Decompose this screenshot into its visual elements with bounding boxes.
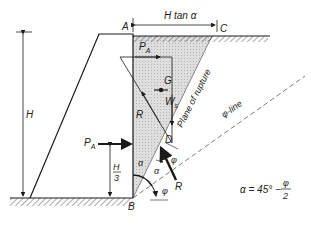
phi-arc-b (152, 186, 156, 196)
label-phi-line: φ-line (219, 98, 243, 119)
label-g: G (164, 75, 172, 86)
label-phi-b: φ (162, 186, 168, 196)
formula-lhs: α = 45° − (240, 184, 281, 195)
phi-arrow-d (156, 160, 163, 162)
backfill-surface-hatch (133, 36, 268, 42)
diagram-canvas: H A C H tan α PA G Ws R PA H 3 Plane of … (0, 0, 311, 225)
label-h-tan-alpha: H tan α (164, 10, 197, 21)
label-a: A (121, 21, 129, 32)
label-h: H (26, 109, 34, 120)
label-b: B (128, 201, 135, 212)
label-d: D (165, 134, 172, 145)
label-alpha-2: α (154, 166, 160, 176)
label-h3-num: H (113, 162, 120, 172)
label-phi-d: φ (171, 155, 177, 165)
label-h3-den: 3 (114, 173, 119, 183)
label-pa-left: PA (84, 137, 96, 150)
label-r-lower: R (175, 181, 182, 192)
formula-den: 2 (282, 191, 288, 201)
base-ground-hatch (10, 198, 133, 206)
label-c: C (220, 23, 228, 34)
label-alpha-1: α (138, 158, 144, 168)
retaining-wall-diagram: H A C H tan α PA G Ws R PA H 3 Plane of … (0, 0, 311, 225)
label-r-upper: R (136, 109, 143, 120)
formula-num: φ (283, 178, 289, 188)
